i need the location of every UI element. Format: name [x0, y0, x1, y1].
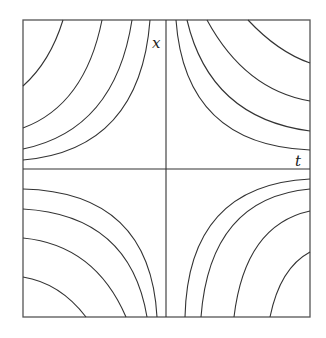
level-curve-bottom-right-3 — [234, 211, 310, 317]
level-curve-bottom-left-1 — [23, 189, 157, 317]
level-curve-top-right-3 — [207, 20, 310, 101]
level-curve-top-right-1 — [176, 20, 310, 150]
t-axis-label: t — [295, 152, 302, 170]
level-curve-top-left-1 — [23, 20, 63, 86]
level-curve-bottom-right-4 — [270, 252, 310, 317]
level-curve-bottom-left-4 — [23, 277, 86, 317]
level-curve-top-right-4 — [248, 20, 310, 63]
x-axis-label: x — [152, 34, 161, 52]
level-curve-bottom-left-2 — [23, 209, 147, 317]
level-curve-top-right-2 — [187, 20, 310, 131]
saddle-phase-diagram: x t — [0, 0, 326, 338]
level-curve-bottom-left-3 — [23, 238, 126, 317]
level-curve-top-left-4 — [23, 20, 150, 160]
level-curve-bottom-right-2 — [201, 189, 310, 317]
